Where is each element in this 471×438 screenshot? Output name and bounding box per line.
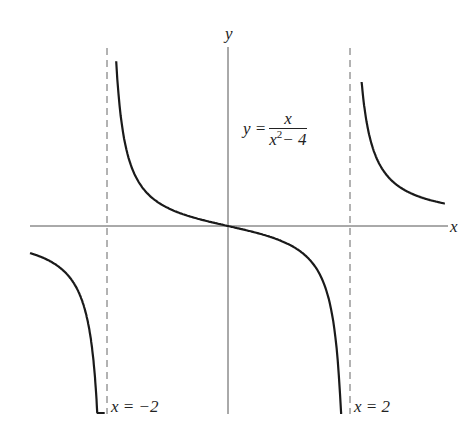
y-axis-label: y <box>225 25 233 42</box>
graph-canvas <box>0 0 471 438</box>
denominator-rest: − 4 <box>282 130 306 149</box>
curve-left-branch <box>30 253 105 413</box>
function-equation: y = x x2− 4 <box>243 110 307 148</box>
equation-numerator: x <box>269 110 306 128</box>
denominator-base: x <box>269 130 277 149</box>
x-axis-label: x <box>450 218 458 235</box>
curve-right-branch <box>362 82 445 204</box>
equation-denominator: x2− 4 <box>269 128 306 149</box>
equation-lhs: y = <box>243 119 266 139</box>
asymptote-right-label: x = 2 <box>354 398 390 415</box>
curve-middle-branch <box>116 61 342 413</box>
asymptote-left-label: x = −2 <box>111 398 159 415</box>
